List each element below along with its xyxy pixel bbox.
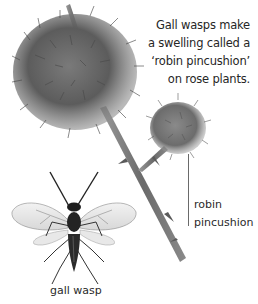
small-robin-pincushion-gall	[146, 93, 211, 160]
robin-pincushion-label-line: robin	[194, 196, 254, 214]
gall-wasp	[12, 172, 136, 284]
caption-line: ‘robin pincushion’	[110, 52, 250, 70]
robin-pincushion-label-line: pincushion	[194, 214, 254, 232]
gall-wasp-label: gall wasp	[50, 284, 102, 298]
caption-line: on rose plants.	[110, 70, 250, 88]
caption-line: a swelling called a	[110, 34, 250, 52]
caption-line: Gall wasps make	[110, 16, 250, 34]
robin-pincushion-label: robin pincushion	[194, 196, 254, 232]
caption: Gall wasps make a swelling called a ‘rob…	[110, 16, 250, 88]
